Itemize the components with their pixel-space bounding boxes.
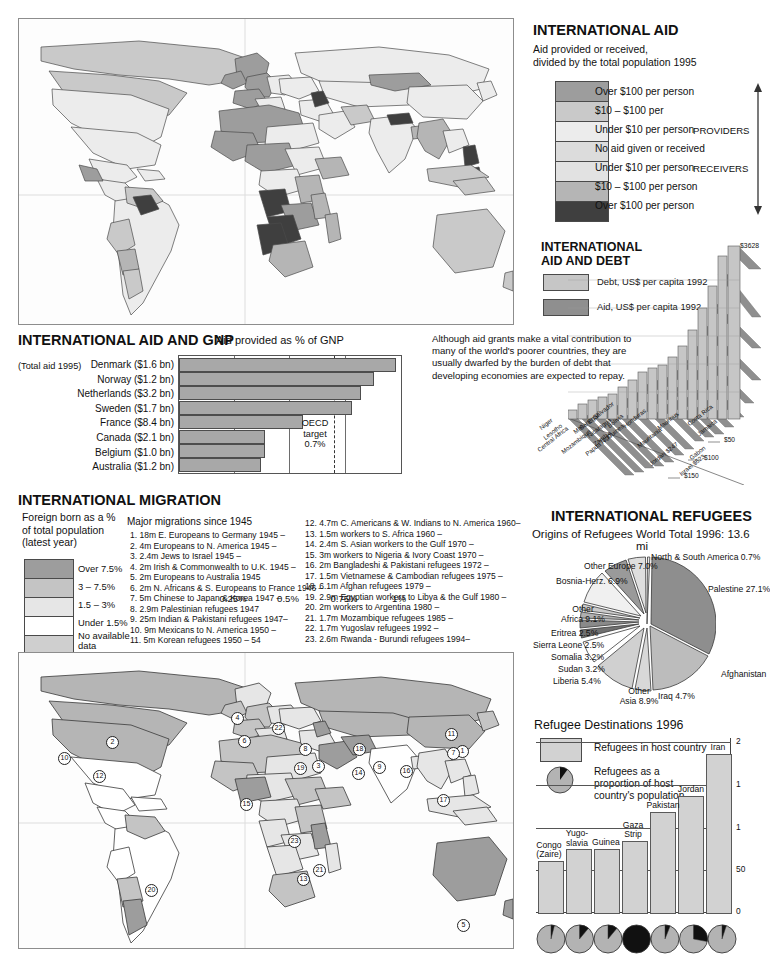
pie-label-iraq: Iraq 4.7% [658, 692, 695, 702]
migration-map-svg [19, 653, 513, 948]
aid-legend-label-4: Under $10 per person [595, 161, 694, 172]
pie-label-americas: North & South America 0.7% [651, 553, 760, 563]
migration-legend-label-0: Over 7.5% [78, 563, 122, 574]
aid-gnp-plot-area: OECD target 0.7% [178, 355, 402, 474]
migration-list-left: 1. 18m E. Europeans to Germany 1945 – 2.… [130, 530, 300, 646]
migration-legend-label-1: 3 – 7.5% [78, 581, 115, 592]
migration-item-17: 17. 1.5m Vietnamese & Cambodian refugees… [305, 571, 525, 582]
aid-legend-label-5: $10 – $100 per person [595, 180, 698, 191]
migration-item-9: 9. 25m Indian & Pakistani refugees 1947– [130, 614, 300, 625]
gnp-cat-2: Netherlands ($3.2 bn) [70, 387, 174, 402]
destinations-tick-2: 1 [736, 822, 741, 832]
destinations-bar-3 [622, 841, 648, 914]
migration-item-2: 2. 4m Europeans to N. America 1945 – [130, 541, 300, 552]
migration-item-1: 1. 18m E. Europeans to Germany 1945 – [130, 530, 300, 541]
destinations-tick-1: 1 [736, 779, 741, 789]
aid-legend-label-1: $10 – $100 per [595, 104, 664, 115]
migration-list-title: Major migrations since 1945 [127, 516, 252, 527]
aid-subtitle-line2: divided by the total population 1995 [533, 57, 757, 70]
oecd-target-line1: OECD [297, 418, 333, 429]
destinations-cat-4: Pakistan [646, 801, 680, 810]
destinations-bar-4 [650, 812, 676, 914]
pie-label-other-europe: Other Europe 7.0% [584, 562, 658, 572]
pie-label-liberia: Liberia 5.4% [553, 677, 601, 687]
gnp-cat-3: Sweden ($1.7 bn) [70, 402, 174, 417]
pie-label-palestine: Palestine 27.1% [708, 585, 770, 595]
pie-label-other-asia: Other Asia 8.9% [619, 687, 659, 706]
aid-gnp-section: INTERNATIONAL AID AND GNP Aid provided a… [18, 332, 422, 352]
receivers-label: RECEIVERS [693, 163, 748, 174]
aid-legend-labels: Over $100 per person $10 – $100 per Unde… [533, 81, 757, 214]
pie-label-sierra-leone: Sierra Leone 2.5% [533, 641, 604, 651]
migration-swatch-3 [25, 617, 73, 636]
gnp-cat-6: Belgium ($1.0 bn) [70, 446, 174, 461]
aid-legend-panel: INTERNATIONAL AID Aid provided or receiv… [533, 22, 757, 221]
destinations-tickline-0 [536, 742, 731, 743]
debt-peak-label: $3628 [740, 242, 759, 249]
gnp-cat-7: Australia ($1.2 bn) [70, 460, 174, 475]
aid-legend-label-2: Under $10 per person [595, 123, 694, 134]
destinations-tick-4: 0 [736, 906, 741, 916]
migration-item-21: 21. 1.7m Mozambique refugees 1985 – [305, 613, 525, 624]
migration-item-19: 19. 2.9m Egyptian workers to Libya & the… [305, 592, 525, 603]
aid-title: INTERNATIONAL AID [533, 22, 757, 38]
gnp-bar-5 [179, 430, 265, 444]
debt-axis-label-1: $100 [704, 454, 719, 461]
migration-swatch-2 [25, 598, 73, 617]
destinations-bar-6 [706, 754, 732, 914]
destinations-cat-3: Gaza Strip [620, 821, 646, 840]
destinations-bar-0 [538, 861, 564, 914]
destinations-cat-1: Yugo- slavia [564, 829, 590, 848]
aid-gnp-category-labels: Denmark ($1.6 bn) Norway ($1.2 bn) Nethe… [70, 358, 174, 475]
migration-swatch-1 [25, 579, 73, 598]
aid-gnp-title: INTERNATIONAL AID AND GNP [18, 332, 234, 348]
migration-item-20: 20. 2m workers to Argentina 1980 – [305, 602, 525, 613]
migration-item-18: 18. 6.1m Afghan refugees 1979 – [305, 581, 525, 592]
gnp-cat-5: Canada ($2.1 bn) [70, 431, 174, 446]
migration-item-13: 13. 1.5m workers to S. Africa 1960 – [305, 529, 525, 540]
aid-legend-label-3: No aid given or received [595, 142, 705, 153]
refugees-pie-labels: North & South America 0.7% Palestine 27.… [525, 545, 761, 695]
destinations-cat-6: Iran [706, 743, 730, 752]
gnp-cat-4: France ($8.4 bn) [70, 416, 174, 431]
providers-receivers-arrow-icon [751, 83, 765, 215]
gnp-bar-2 [179, 386, 361, 400]
gnp-bar-3 [179, 401, 352, 415]
migration-swatch-0 [25, 560, 73, 579]
migration-title: INTERNATIONAL MIGRATION [18, 492, 221, 508]
aid-world-map [18, 18, 514, 325]
providers-label: PROVIDERS [693, 125, 750, 136]
destinations-bar-5 [678, 796, 704, 914]
migration-item-23: 23. 2.6m Rwanda - Burundi refugees 1994– [305, 634, 525, 645]
pie-label-sudan: Sudan 3.2% [558, 665, 605, 675]
migration-legend-label-3: Under 1.5% [78, 617, 128, 628]
destinations-tick-0: 2 [736, 736, 741, 746]
pie-label-somalia: Somalia 3.2% [551, 653, 604, 663]
migration-item-22: 22. 1.7m Yugoslav refugees 1992 – [305, 623, 525, 634]
migration-legend-title-line3: (latest year) [22, 537, 132, 550]
destinations-bar-1 [566, 849, 592, 914]
aid-gnp-subtitle: Aid provided as % of GNP [216, 334, 344, 347]
pie-label-other-africa: Other Africa 9.1% [561, 605, 605, 624]
aid-gnp-chart: (Total aid 1995) Denmark ($1.6 bn) Norwa… [18, 355, 422, 483]
migration-item-16: 16. 2m Bangladeshi & Pakistani refugees … [305, 560, 525, 571]
oecd-target-line3: 0.7% [297, 439, 333, 450]
gnp-cat-0: Denmark ($1.6 bn) [70, 358, 174, 373]
gnp-bar-4 [179, 415, 303, 429]
migration-item-10: 10. 9m Mexicans to N. America 1950 – [130, 625, 300, 636]
migration-legend-title-line1: Foreign born as a % [22, 512, 132, 525]
migration-item-3: 3. 2.4m Jews to Israel 1945 – [130, 551, 300, 562]
migration-legend-title-line2: of total population [22, 525, 132, 538]
destinations-proportion-pies-svg [536, 922, 746, 956]
destinations-bar-2 [594, 849, 620, 914]
debt-axis-label-0: $50 [724, 436, 735, 443]
pie-label-afghanistan: Afghanistan [721, 670, 766, 680]
gnp-cat-1: Norway ($1.2 bn) [70, 373, 174, 388]
destinations-cat-0: Congo (Zaire) [536, 841, 562, 860]
aid-legend-label-0: Over $100 per person [595, 85, 694, 96]
migration-item-15: 15. 3m workers to Nigeria & Ivory Coast … [305, 550, 525, 561]
destinations-cat-2: Guinea [592, 838, 618, 847]
migration-legend-swatches [24, 559, 74, 655]
oecd-target-line2: target [297, 429, 333, 440]
aid-debt-3d-chart: $3628 [568, 242, 761, 485]
